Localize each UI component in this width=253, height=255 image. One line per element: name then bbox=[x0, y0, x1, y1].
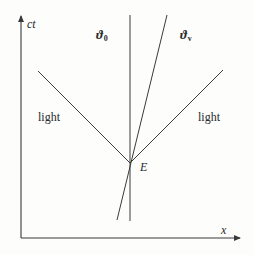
worldline-rest-label: ϑ0 bbox=[96, 28, 108, 43]
light-label-right: light bbox=[198, 111, 220, 123]
spacetime-diagram: ct x ϑ0 ϑv light light E bbox=[0, 0, 253, 255]
event-label: E bbox=[140, 161, 147, 173]
worldline-moving-subscript: v bbox=[188, 34, 192, 43]
worldline-rest-subscript: 0 bbox=[104, 34, 108, 43]
diagram-canvas bbox=[0, 0, 253, 255]
ct-axis-label: ct bbox=[27, 18, 36, 30]
worldline-moving-label: ϑv bbox=[180, 28, 192, 43]
worldline-moving bbox=[117, 15, 167, 220]
worldline-moving-symbol: ϑ bbox=[180, 27, 187, 42]
light-label-left: light bbox=[38, 111, 60, 123]
worldline-rest-symbol: ϑ bbox=[96, 27, 103, 42]
x-axis-label: x bbox=[221, 224, 226, 236]
